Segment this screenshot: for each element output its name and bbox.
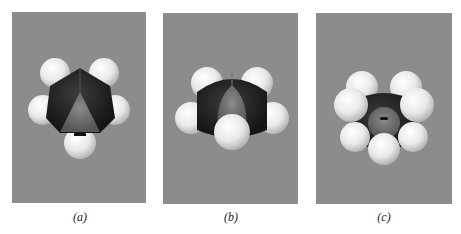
caption-a: (a) xyxy=(60,210,100,225)
caption-c: (c) xyxy=(364,210,404,225)
caption-b: (b) xyxy=(211,210,251,225)
panel-c xyxy=(316,13,452,204)
panel-b xyxy=(163,13,298,204)
panel-a xyxy=(12,12,146,203)
figure-canvas xyxy=(0,0,461,234)
